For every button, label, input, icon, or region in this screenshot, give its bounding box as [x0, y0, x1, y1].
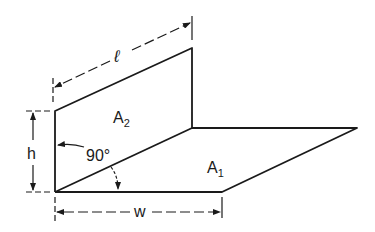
- area-a1-label: A1: [207, 159, 224, 179]
- length-label: ℓ: [113, 47, 120, 66]
- width-label: w: [133, 203, 146, 220]
- height-label: h: [27, 145, 36, 162]
- angle-label: 90°: [86, 147, 110, 164]
- length-dimension: [53, 16, 192, 102]
- shared-edge: [55, 128, 192, 192]
- angle-plates-diagram: ℓ h w 90° A2 A1: [0, 0, 375, 232]
- area-a2-label: A2: [113, 109, 130, 129]
